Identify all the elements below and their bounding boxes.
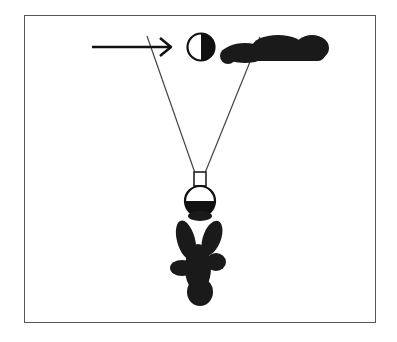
half-filled-circle-icon (188, 34, 215, 61)
arrow-icon (92, 38, 171, 56)
connector (194, 172, 206, 186)
redacted-figure (170, 211, 227, 306)
diagram-canvas (0, 0, 397, 342)
redacted-label (220, 35, 329, 64)
left-line (147, 36, 195, 173)
